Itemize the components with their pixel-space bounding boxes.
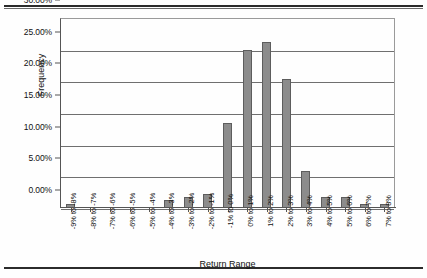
x-tick-label: 1% to 2% bbox=[267, 195, 274, 227]
bar bbox=[262, 42, 271, 208]
x-axis-tick-labels: -9% to -8%-8% to -7%-7% to -6%-6% to -5%… bbox=[60, 209, 395, 257]
x-tick-label: 5% to 6% bbox=[346, 195, 353, 227]
bar-slot bbox=[335, 18, 355, 208]
bar-slot bbox=[61, 18, 81, 208]
bar-slot bbox=[375, 18, 395, 208]
x-label-slot: -9% to -8% bbox=[60, 209, 80, 257]
x-tick-label: 4% to 5% bbox=[326, 195, 333, 227]
bar-slot bbox=[81, 18, 101, 208]
x-label-slot: -6% to -5% bbox=[119, 209, 139, 257]
bar-slot bbox=[316, 18, 336, 208]
page-top-rule bbox=[4, 5, 423, 7]
x-label-slot: -1% to 0% bbox=[218, 209, 238, 257]
bar-slot bbox=[355, 18, 375, 208]
x-tick-label: -8% to -7% bbox=[90, 193, 97, 230]
bar bbox=[282, 79, 291, 208]
bar-slot bbox=[296, 18, 316, 208]
x-tick-label: 3% to 4% bbox=[306, 195, 313, 227]
x-tick-label: -5% to -4% bbox=[149, 193, 156, 230]
x-tick-label: -1% to 0% bbox=[227, 194, 234, 228]
y-tick-label: 30.00% bbox=[24, 0, 52, 4]
bar-slot bbox=[159, 18, 179, 208]
bar-slot bbox=[198, 18, 218, 208]
x-label-slot: 3% to 4% bbox=[296, 209, 316, 257]
x-label-slot: -3% to -2% bbox=[178, 209, 198, 257]
x-label-slot: 7% to 8% bbox=[375, 209, 395, 257]
x-tick-label: -4% to -3% bbox=[168, 193, 175, 230]
bar bbox=[243, 50, 252, 208]
x-label-slot: -5% to -4% bbox=[139, 209, 159, 257]
x-tick-label: -2% to -1% bbox=[208, 193, 215, 230]
bar-slot bbox=[277, 18, 297, 208]
bar-slot bbox=[179, 18, 199, 208]
x-label-slot: -2% to -1% bbox=[198, 209, 218, 257]
x-label-slot: 2% to 3% bbox=[277, 209, 297, 257]
bar-slot bbox=[139, 18, 159, 208]
x-label-slot: 5% to 6% bbox=[336, 209, 356, 257]
x-tick-label: -9% to -8% bbox=[70, 193, 77, 230]
bar-series bbox=[61, 18, 394, 208]
y-tick-mark bbox=[55, 0, 60, 1]
x-label-slot: 4% to 5% bbox=[316, 209, 336, 257]
y-axis-ticks: 30.00%25.00%20.00%15.00%10.00%5.00%0.00% bbox=[0, 0, 60, 190]
y-tick-label: 20.00% bbox=[24, 59, 52, 68]
bar-slot bbox=[100, 18, 120, 208]
x-tick-label: -3% to -2% bbox=[188, 193, 195, 230]
x-label-slot: -4% to -3% bbox=[159, 209, 179, 257]
x-tick-label: 6% to 7% bbox=[365, 195, 372, 227]
x-tick-label: 0% to 1% bbox=[247, 195, 254, 227]
bar-slot bbox=[120, 18, 140, 208]
plot-area bbox=[60, 18, 395, 208]
x-axis-title: Return Range bbox=[60, 259, 395, 269]
y-tick-label: 0.00% bbox=[28, 186, 52, 195]
y-tick-label: 25.00% bbox=[24, 27, 52, 36]
x-tick-label: -6% to -5% bbox=[129, 193, 136, 230]
bar-slot bbox=[237, 18, 257, 208]
y-tick-label: 15.00% bbox=[24, 91, 52, 100]
x-label-slot: 0% to 1% bbox=[237, 209, 257, 257]
x-tick-label: 2% to 3% bbox=[287, 195, 294, 227]
y-tick-label: 5.00% bbox=[28, 154, 52, 163]
x-tick-label: 7% to 8% bbox=[385, 195, 392, 227]
bar-slot bbox=[257, 18, 277, 208]
x-label-slot: 6% to 7% bbox=[356, 209, 376, 257]
histogram-figure: Frequency 30.00%25.00%20.00%15.00%10.00%… bbox=[0, 0, 427, 278]
x-label-slot: -7% to -6% bbox=[99, 209, 119, 257]
page-top-rule-thin bbox=[4, 8, 423, 9]
bar-slot bbox=[218, 18, 238, 208]
x-label-slot: 1% to 2% bbox=[257, 209, 277, 257]
y-tick-label: 10.00% bbox=[24, 122, 52, 131]
x-tick-label: -7% to -6% bbox=[109, 193, 116, 230]
x-label-slot: -8% to -7% bbox=[80, 209, 100, 257]
